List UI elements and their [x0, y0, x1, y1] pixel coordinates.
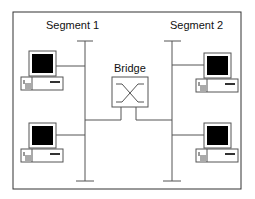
segment-1-label: Segment 1 — [46, 19, 99, 31]
computer-icon — [21, 123, 63, 162]
segment-2-label: Segment 2 — [170, 19, 223, 31]
bridge-label: Bridge — [114, 62, 146, 74]
bridge-device — [85, 77, 172, 120]
computer-icon — [196, 53, 238, 92]
computer-icon — [21, 51, 63, 90]
computer-icon — [196, 123, 238, 162]
